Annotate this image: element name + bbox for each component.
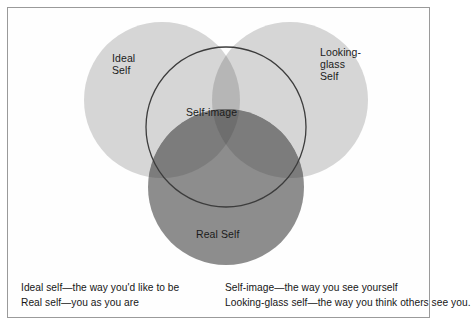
venn-diagram-area: Ideal Self Looking- glass Self Self-imag…	[0, 0, 441, 280]
caption-column-right: Self-image—the way you see yourself Look…	[225, 281, 471, 310]
caption-line-ideal-self: Ideal self—the way you'd like to be	[21, 281, 179, 296]
caption-line-real-self: Real self—you as you are	[21, 296, 179, 311]
caption-block: Ideal self—the way you'd like to be Real…	[0, 281, 441, 328]
caption-line-looking-glass-self: Looking-glass self—the way you think oth…	[225, 296, 471, 311]
caption-column-left: Ideal self—the way you'd like to be Real…	[21, 281, 179, 310]
caption-line-self-image: Self-image—the way you see yourself	[225, 281, 471, 296]
venn-diagram-svg	[0, 0, 441, 280]
